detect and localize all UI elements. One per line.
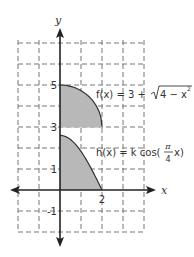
f-label-exponent: 2: [187, 85, 191, 92]
f-label: f(x) = 3 +: [96, 89, 146, 100]
graph: yx531-12f(x) = 3 + 4 − x2h(x) = k cos(π4…: [0, 0, 194, 257]
y-tick-label: -1: [47, 206, 57, 217]
y-tick-label: 5: [51, 80, 57, 91]
h-label: h(x) = k cos(: [96, 147, 161, 158]
axes: [10, 28, 156, 247]
h-label-numerator: π: [164, 142, 171, 151]
x-axis-label: x: [161, 184, 168, 197]
x-tick-label: 2: [99, 194, 105, 205]
y-tick-label: 3: [51, 122, 57, 133]
h-shaded-region: [60, 135, 102, 190]
y-tick-label: 1: [51, 164, 57, 175]
f-label-radicand: 4 − x: [160, 89, 187, 100]
h-label-rhs: x): [174, 147, 184, 158]
y-axis-label: y: [54, 14, 62, 27]
h-label-denominator: 4: [165, 155, 170, 164]
dashed-grid: [18, 40, 144, 232]
